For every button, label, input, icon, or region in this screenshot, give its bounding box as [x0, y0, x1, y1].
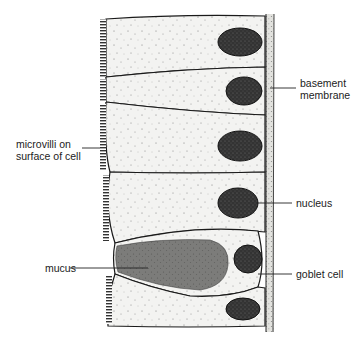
label-microvilli: microvilli on surface of cell: [16, 138, 81, 162]
nucleus-goblet: [234, 245, 262, 273]
nucleus-3: [218, 131, 262, 161]
epithelium-diagram: [0, 0, 358, 344]
label-basement-membrane: basement membrane: [300, 77, 350, 101]
nucleus-1: [218, 28, 262, 56]
label-nucleus: nucleus: [296, 197, 332, 209]
nucleus-4: [218, 188, 258, 218]
label-mucus: mucus: [45, 262, 76, 274]
basement-membrane: [266, 14, 274, 332]
nucleus-2: [226, 77, 262, 105]
nucleus-6: [226, 298, 260, 320]
label-goblet-cell: goblet cell: [296, 268, 343, 280]
